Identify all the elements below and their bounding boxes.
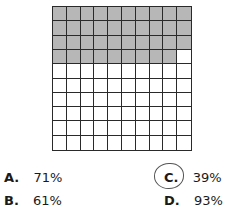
option-a-value: 71% (33, 170, 62, 185)
option-c-letter: C. (164, 170, 178, 185)
empty-cell (94, 107, 108, 121)
empty-cell (94, 136, 108, 150)
shaded-cell (177, 21, 191, 35)
empty-cell (108, 64, 122, 78)
empty-cell (67, 93, 81, 107)
empty-cell (53, 121, 67, 135)
empty-cell (122, 136, 136, 150)
shaded-cell (53, 21, 67, 35)
empty-cell (136, 107, 150, 121)
empty-cell (150, 79, 164, 93)
option-d-value: 93% (194, 193, 223, 208)
shaded-cell (136, 36, 150, 50)
empty-cell (108, 107, 122, 121)
empty-cell (94, 64, 108, 78)
shaded-cell (122, 7, 136, 21)
empty-cell (81, 121, 95, 135)
shaded-cell (108, 21, 122, 35)
empty-cell (150, 93, 164, 107)
shaded-cell (108, 50, 122, 64)
shaded-cell (163, 50, 177, 64)
empty-cell (53, 93, 67, 107)
shaded-cell (67, 50, 81, 64)
shaded-cell (81, 50, 95, 64)
shaded-cell (150, 50, 164, 64)
empty-cell (94, 79, 108, 93)
option-c-value: 39% (193, 170, 222, 185)
option-d-letter: D. (164, 193, 180, 208)
shaded-cell (108, 36, 122, 50)
shaded-cell (94, 21, 108, 35)
shaded-cell (122, 21, 136, 35)
empty-cell (108, 93, 122, 107)
empty-cell (136, 93, 150, 107)
shaded-cell (94, 50, 108, 64)
empty-cell (53, 64, 67, 78)
option-b-value: 61% (33, 193, 62, 208)
shaded-cell (150, 7, 164, 21)
shaded-cell (67, 7, 81, 21)
option-a-letter: A. (4, 170, 19, 185)
shaded-cell (163, 21, 177, 35)
empty-cell (53, 79, 67, 93)
empty-cell (53, 107, 67, 121)
empty-cell (122, 93, 136, 107)
empty-cell (94, 121, 108, 135)
shaded-cell (53, 36, 67, 50)
shaded-cell (81, 36, 95, 50)
empty-cell (108, 136, 122, 150)
empty-cell (136, 121, 150, 135)
option-b[interactable]: B. 61% (4, 193, 62, 208)
empty-cell (177, 121, 191, 135)
empty-cell (67, 107, 81, 121)
empty-cell (150, 107, 164, 121)
shaded-cell (53, 7, 67, 21)
shaded-cell (67, 36, 81, 50)
shaded-cell (94, 7, 108, 21)
empty-cell (94, 93, 108, 107)
shaded-cell (81, 7, 95, 21)
empty-cell (122, 79, 136, 93)
empty-cell (177, 64, 191, 78)
shaded-cell (163, 36, 177, 50)
empty-cell (163, 121, 177, 135)
shaded-cell (122, 50, 136, 64)
empty-cell (108, 121, 122, 135)
shaded-cell (81, 21, 95, 35)
empty-cell (53, 136, 67, 150)
shaded-cell (150, 36, 164, 50)
empty-cell (122, 64, 136, 78)
shaded-cell (94, 36, 108, 50)
option-a[interactable]: A. 71% (4, 170, 62, 185)
option-c[interactable]: C. 39% (164, 170, 222, 185)
shaded-cell (108, 7, 122, 21)
empty-cell (136, 136, 150, 150)
shaded-cell (136, 7, 150, 21)
empty-cell (81, 79, 95, 93)
empty-cell (177, 136, 191, 150)
empty-cell (122, 107, 136, 121)
empty-cell (108, 79, 122, 93)
empty-cell (67, 136, 81, 150)
shaded-cell (122, 36, 136, 50)
shaded-cell (67, 21, 81, 35)
empty-cell (177, 79, 191, 93)
empty-cell (81, 93, 95, 107)
empty-cell (150, 121, 164, 135)
option-b-letter: B. (4, 193, 19, 208)
empty-cell (67, 64, 81, 78)
empty-cell (163, 136, 177, 150)
shaded-cell (150, 21, 164, 35)
empty-cell (67, 79, 81, 93)
option-d[interactable]: D. 93% (164, 193, 223, 208)
empty-cell (163, 64, 177, 78)
empty-cell (150, 136, 164, 150)
shaded-cell (177, 7, 191, 21)
empty-cell (177, 107, 191, 121)
empty-cell (163, 79, 177, 93)
empty-cell (150, 64, 164, 78)
hundred-grid (52, 6, 192, 151)
empty-cell (67, 121, 81, 135)
empty-cell (163, 107, 177, 121)
empty-cell (81, 64, 95, 78)
